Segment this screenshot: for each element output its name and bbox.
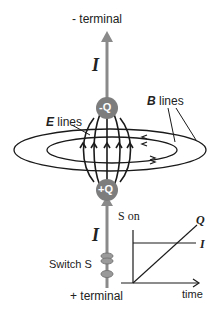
graph-x-label: time — [182, 289, 203, 300]
current-label-top: I — [92, 56, 99, 74]
top-wire — [101, 31, 113, 105]
e-field-symbol: E — [46, 115, 54, 129]
e-lines-label: E lines — [46, 116, 82, 128]
negative-charge-label: -Q — [99, 102, 111, 113]
b-lines-word: lines — [156, 94, 184, 108]
b-lines-pointer — [168, 108, 196, 142]
e-lines-word: lines — [54, 115, 82, 129]
e-field-lines — [80, 112, 133, 188]
b-lines-label: B lines — [147, 95, 184, 107]
graph-series-q — [133, 225, 197, 283]
graph-label-i: I — [200, 238, 205, 250]
graph-title: S on — [118, 210, 140, 222]
positive-charge-label: +Q — [98, 184, 113, 195]
switch-label: Switch S — [49, 259, 92, 270]
b-field-lines — [14, 129, 206, 171]
negative-terminal-label: - terminal — [72, 13, 122, 25]
positive-terminal-label: + terminal — [70, 290, 123, 302]
graph-label-q: Q — [196, 214, 205, 226]
b-field-symbol: B — [147, 94, 156, 108]
current-label-bottom: I — [92, 226, 99, 244]
capacitor-diagram: - terminal I -Q +Q E lines B lines I Swi… — [0, 0, 221, 315]
